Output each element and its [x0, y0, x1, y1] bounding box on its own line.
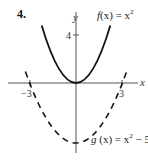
tick-label-y4: 4: [66, 30, 71, 41]
label-f: f(x) = x2: [97, 8, 134, 22]
y-axis-label: y: [72, 11, 78, 23]
tick-label-x3: 3: [119, 88, 124, 99]
problem-number: 4.: [17, 7, 26, 21]
x-axis-label: x: [139, 76, 145, 88]
label-g: g (x) = x2 − 5: [91, 132, 148, 146]
tick-label-xneg3: −3: [21, 88, 32, 99]
graph-figure: 4. y x 4 −3 3 f(x) = x2 g (x) = x2 − 5: [0, 0, 148, 161]
